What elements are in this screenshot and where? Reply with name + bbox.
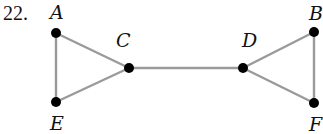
edge-d-f	[243, 68, 314, 103]
node-label-e: E	[49, 112, 64, 134]
node-a	[51, 28, 61, 38]
node-e	[51, 97, 61, 107]
edge-e-c	[56, 68, 129, 102]
graph-diagram: 22. AECDBF	[0, 0, 323, 134]
node-f	[309, 98, 319, 108]
node-d	[238, 63, 248, 73]
node-b	[309, 27, 319, 37]
node-c	[124, 63, 134, 73]
node-label-c: C	[116, 29, 131, 51]
node-label-a: A	[48, 1, 64, 23]
node-label-b: B	[308, 2, 323, 24]
node-label-d: D	[241, 29, 257, 51]
edges-group	[56, 32, 314, 103]
node-label-f: F	[308, 113, 323, 134]
problem-number: 22.	[3, 2, 28, 24]
